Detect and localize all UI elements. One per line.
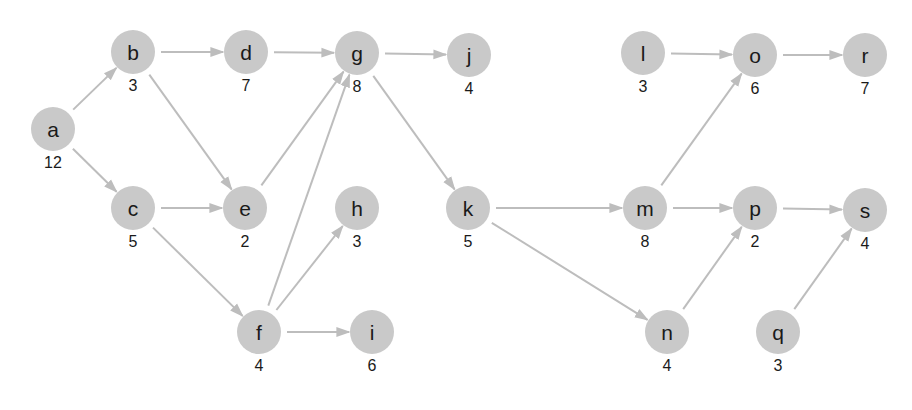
node-weight: 3: [639, 78, 648, 95]
edge-n-to-p: [683, 227, 742, 309]
edge-b-to-e: [149, 75, 231, 190]
edge-f-to-h: [276, 226, 342, 310]
edge-g-to-k: [373, 76, 454, 190]
node-d: d7: [224, 30, 268, 94]
node-q: q3: [756, 310, 800, 374]
node-c: c5: [111, 186, 155, 250]
node-label: b: [127, 41, 139, 64]
node-weight: 12: [44, 154, 62, 171]
node-f: f4: [237, 310, 281, 374]
node-label: g: [351, 42, 363, 65]
nodes-layer: a12b3c5d7e2f4g8h3i6j4k5l3m8n4o6p2q3r7s4: [31, 30, 887, 374]
node-g: g8: [335, 31, 379, 95]
node-k: k5: [446, 186, 490, 250]
node-n: n4: [645, 310, 689, 374]
node-label: c: [128, 197, 139, 220]
edge-g-to-j: [385, 54, 446, 55]
node-label: a: [47, 118, 59, 141]
edge-c-to-f: [153, 228, 243, 316]
edge-a-to-c: [73, 149, 117, 192]
node-j: j4: [447, 33, 491, 97]
node-weight: 8: [641, 233, 650, 250]
edge-d-to-g: [274, 52, 334, 53]
node-weight: 3: [353, 233, 362, 250]
node-weight: 5: [129, 233, 138, 250]
edge-p-to-s: [783, 209, 842, 210]
node-weight: 2: [751, 233, 760, 250]
node-weight: 7: [861, 80, 870, 97]
node-e: e2: [223, 186, 267, 250]
node-b: b3: [111, 30, 155, 94]
node-weight: 3: [129, 77, 138, 94]
node-weight: 2: [241, 233, 250, 250]
node-label: f: [256, 321, 262, 344]
node-weight: 3: [774, 357, 783, 374]
node-weight: 7: [242, 77, 251, 94]
edge-m-to-o: [661, 74, 741, 186]
node-weight: 6: [368, 357, 377, 374]
edge-f-to-g: [268, 75, 349, 306]
node-label: e: [239, 197, 251, 220]
node-label: k: [463, 197, 474, 220]
node-label: l: [641, 42, 646, 65]
node-label: r: [862, 44, 869, 67]
dependency-graph: a12b3c5d7e2f4g8h3i6j4k5l3m8n4o6p2q3r7s4: [0, 0, 912, 410]
node-weight: 4: [255, 357, 264, 374]
node-p: p2: [733, 186, 777, 250]
node-label: s: [860, 199, 871, 222]
node-weight: 8: [353, 78, 362, 95]
node-s: s4: [843, 188, 887, 252]
node-label: i: [370, 321, 375, 344]
node-label: q: [772, 321, 784, 344]
node-a: a12: [31, 107, 75, 171]
edge-q-to-s: [794, 229, 851, 310]
node-weight: 4: [861, 235, 870, 252]
node-label: m: [636, 197, 654, 220]
node-weight: 6: [751, 80, 760, 97]
node-label: p: [749, 197, 761, 220]
edge-l-to-o: [671, 54, 732, 55]
edge-k-to-n: [492, 223, 648, 320]
node-label: o: [749, 44, 761, 67]
node-label: h: [351, 197, 363, 220]
node-weight: 4: [465, 80, 474, 97]
node-label: n: [661, 321, 673, 344]
node-l: l3: [621, 31, 665, 95]
node-label: d: [240, 41, 252, 64]
node-o: o6: [733, 33, 777, 97]
node-m: m8: [623, 186, 667, 250]
node-r: r7: [843, 33, 887, 97]
node-weight: 4: [663, 357, 672, 374]
node-h: h3: [335, 186, 379, 250]
node-weight: 5: [464, 233, 473, 250]
node-i: i6: [350, 310, 394, 374]
node-label: j: [466, 44, 472, 67]
edge-a-to-b: [73, 68, 116, 110]
